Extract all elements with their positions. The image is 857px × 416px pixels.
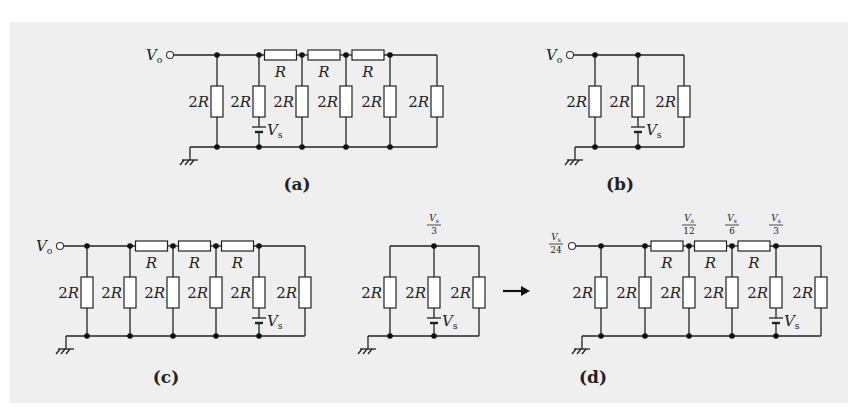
svg-text:Vs: Vs bbox=[684, 213, 694, 224]
shunt-resistor bbox=[167, 277, 179, 308]
ground-icon bbox=[180, 147, 198, 165]
resistor-label: R bbox=[231, 254, 243, 272]
resistor-label: R bbox=[747, 254, 759, 272]
shunt-resistor bbox=[299, 277, 311, 308]
ground-icon bbox=[56, 336, 74, 354]
battery-icon bbox=[427, 318, 441, 323]
resistor-label: 2R bbox=[188, 93, 209, 111]
svg-text:Vs: Vs bbox=[771, 213, 781, 224]
resistor-label: 2R bbox=[616, 284, 637, 302]
top-junction-node bbox=[127, 243, 133, 249]
resistor-label: 2R bbox=[792, 284, 813, 302]
source-voltage-label: Vs bbox=[267, 121, 283, 140]
bottom-junction-node bbox=[635, 144, 641, 150]
shunt-resistor bbox=[683, 277, 695, 308]
resistor-label: 2R bbox=[58, 284, 79, 302]
resistor-label: R bbox=[704, 254, 716, 272]
bottom-junction-node bbox=[170, 333, 176, 339]
bottom-junction-node bbox=[299, 144, 305, 150]
circuit-a: RRR2R2RVs2R2R2R2RVo bbox=[146, 46, 443, 165]
svg-text:6: 6 bbox=[729, 226, 735, 236]
top-junction-node bbox=[431, 243, 437, 249]
ground-icon bbox=[565, 147, 583, 165]
bottom-junction-node bbox=[686, 333, 692, 339]
svg-text:3: 3 bbox=[773, 226, 779, 236]
bottom-junction-node bbox=[773, 333, 779, 339]
resistor-label: 2R bbox=[276, 284, 297, 302]
shunt-resistor bbox=[296, 86, 308, 117]
circuit-b: 2R2RVs2RVo bbox=[546, 46, 690, 165]
circuit-diagram: RRR2R2RVs2R2R2R2RVo(a)2R2RVs2RVo(b)RRR2R… bbox=[0, 0, 857, 416]
shunt-resistor bbox=[384, 277, 396, 308]
shunt-resistor bbox=[253, 277, 265, 308]
arrow-right-icon bbox=[503, 286, 530, 296]
svg-text:3: 3 bbox=[431, 226, 437, 236]
panel-caption-c: (c) bbox=[153, 367, 179, 387]
top-junction-node bbox=[256, 52, 262, 58]
bottom-junction-node bbox=[214, 144, 220, 150]
source-voltage-label: Vs bbox=[784, 312, 800, 331]
top-junction-node bbox=[84, 243, 90, 249]
series-resistor bbox=[738, 241, 770, 251]
shunt-resistor bbox=[473, 277, 485, 308]
panel-caption-d: (d) bbox=[579, 367, 607, 387]
panel-caption-b: (b) bbox=[606, 174, 634, 194]
resistor-label: 2R bbox=[609, 93, 630, 111]
bottom-junction-node bbox=[343, 144, 349, 150]
resistor-label: 2R bbox=[317, 93, 338, 111]
series-resistor bbox=[179, 241, 211, 251]
shunt-resistor bbox=[589, 86, 601, 117]
top-junction-node bbox=[592, 52, 598, 58]
resistor-label: 2R bbox=[187, 284, 208, 302]
resistor-label: 2R bbox=[747, 284, 768, 302]
bottom-junction-node bbox=[127, 333, 133, 339]
bottom-junction-node bbox=[729, 333, 735, 339]
series-resistor bbox=[265, 50, 297, 60]
bottom-junction-node bbox=[642, 333, 648, 339]
source-voltage-label: Vs bbox=[267, 312, 283, 331]
output-voltage-value: Vs24 bbox=[549, 232, 563, 255]
resistor-label: R bbox=[660, 254, 672, 272]
resistor-label: 2R bbox=[408, 93, 429, 111]
shunt-resistor bbox=[253, 86, 265, 117]
ground-icon bbox=[572, 336, 590, 354]
ground-icon bbox=[358, 336, 376, 354]
source-voltage-label: Vs bbox=[646, 121, 662, 140]
resistor-label: 2R bbox=[405, 284, 426, 302]
resistor-label: 2R bbox=[230, 93, 251, 111]
resistor-label: 2R bbox=[572, 284, 593, 302]
series-resistor bbox=[695, 241, 727, 251]
top-junction-node bbox=[343, 52, 349, 58]
resistor-label: R bbox=[274, 63, 286, 81]
resistor-label: 2R bbox=[361, 93, 382, 111]
battery-icon bbox=[631, 127, 645, 132]
svg-text:Vs: Vs bbox=[551, 232, 561, 243]
node-voltage-label: Vs3 bbox=[769, 213, 783, 236]
top-junction-node bbox=[256, 243, 262, 249]
node-voltage-label: Vs6 bbox=[725, 213, 739, 236]
svg-text:Vs: Vs bbox=[727, 213, 737, 224]
shunt-resistor bbox=[431, 86, 443, 117]
resistor-label: R bbox=[361, 63, 373, 81]
shunt-resistor bbox=[815, 277, 827, 308]
output-terminal bbox=[57, 243, 64, 250]
node-voltage-label: Vs3 bbox=[427, 213, 441, 236]
resistor-label: R bbox=[317, 63, 329, 81]
top-junction-node bbox=[598, 243, 604, 249]
shunt-resistor bbox=[340, 86, 352, 117]
resistor-label: 2R bbox=[273, 93, 294, 111]
node-voltage-label: Vs12 bbox=[682, 213, 696, 236]
output-voltage-label: Vo bbox=[546, 46, 563, 65]
shunt-resistor bbox=[428, 277, 440, 308]
shunt-resistor bbox=[210, 277, 222, 308]
shunt-resistor bbox=[211, 86, 223, 117]
top-junction-node bbox=[686, 243, 692, 249]
svg-text:12: 12 bbox=[683, 226, 694, 236]
top-junction-node bbox=[299, 52, 305, 58]
output-terminal bbox=[569, 243, 576, 250]
resistor-label: 2R bbox=[144, 284, 165, 302]
battery-icon bbox=[252, 127, 266, 132]
shunt-resistor bbox=[124, 277, 136, 308]
bottom-junction-node bbox=[256, 333, 262, 339]
bottom-junction-node bbox=[387, 333, 393, 339]
